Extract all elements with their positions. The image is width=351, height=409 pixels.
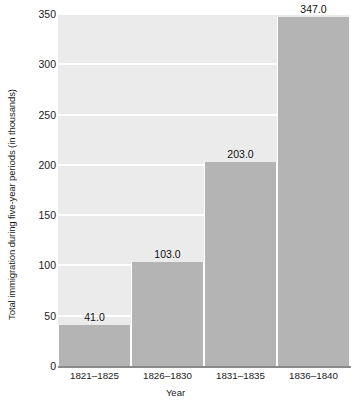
y-axis-tick: 250 xyxy=(16,109,56,121)
bar-value-label: 347.0 xyxy=(300,3,326,15)
y-axis-tick: 200 xyxy=(16,159,56,171)
y-axis-tick: 50 xyxy=(16,310,56,322)
y-axis-tick: 350 xyxy=(16,8,56,20)
y-axis-tick: 150 xyxy=(16,209,56,221)
x-axis-line xyxy=(58,366,351,368)
x-axis-tick: 1821–1825 xyxy=(70,370,119,381)
bar[interactable] xyxy=(131,262,204,366)
x-axis-tick: 1831–1835 xyxy=(216,370,265,381)
y-axis-tick: 300 xyxy=(16,58,56,70)
x-axis-label: Year xyxy=(0,387,351,398)
bar[interactable] xyxy=(277,17,350,366)
bar[interactable] xyxy=(58,325,131,366)
bar-value-label: 103.0 xyxy=(154,248,180,260)
x-axis-tick: 1826–1830 xyxy=(143,370,192,381)
bar-chart: Total immigration during five-year perio… xyxy=(0,0,351,409)
bar-value-label: 203.0 xyxy=(227,148,253,160)
bar[interactable] xyxy=(204,162,277,366)
y-axis-tick: 100 xyxy=(16,259,56,271)
x-axis-tick: 1836–1840 xyxy=(289,370,338,381)
bar-value-label: 41.0 xyxy=(84,311,104,323)
y-axis-tick: 0 xyxy=(16,360,56,372)
